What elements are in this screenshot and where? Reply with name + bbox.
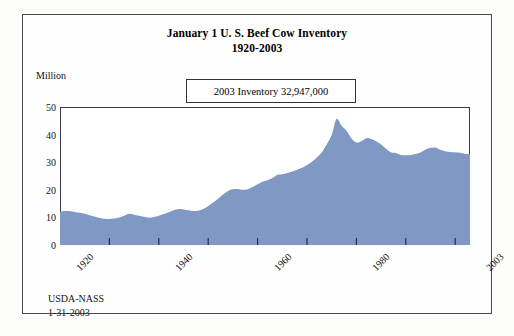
y-tick-label: 10	[34, 212, 56, 223]
y-axis-tick-labels: 01020304050	[30, 107, 56, 245]
y-tick-label: 50	[34, 102, 56, 113]
y-tick-label: 20	[34, 184, 56, 195]
inventory-annotation-label: 2003 Inventory 32,947,000	[214, 86, 328, 97]
page-title: January 1 U. S. Beef Cow Inventory	[0, 26, 514, 41]
inventory-area-series	[60, 119, 470, 245]
source-footer: USDA-NASS 1-31-2003	[48, 292, 104, 319]
y-tick-label: 30	[34, 157, 56, 168]
y-tick-label: 40	[34, 129, 56, 140]
y-axis-title: Million	[36, 70, 66, 81]
source-date: 1-31-2003	[48, 306, 104, 320]
x-tick-label: 1980	[370, 251, 392, 273]
x-tick-label: 1920	[74, 251, 96, 273]
x-tick-label: 1960	[271, 251, 293, 273]
x-axis-tick-labels: 19201940196019802003	[60, 245, 470, 293]
chart-subtitle: 1920-2003	[0, 41, 514, 56]
chart-title-block: January 1 U. S. Beef Cow Inventory 1920-…	[0, 26, 514, 55]
plot-area	[60, 107, 470, 245]
y-tick-label: 0	[34, 240, 56, 251]
document-page: January 1 U. S. Beef Cow Inventory 1920-…	[0, 0, 514, 336]
inventory-annotation-box: 2003 Inventory 32,947,000	[186, 79, 356, 103]
source-agency: USDA-NASS	[48, 292, 104, 306]
beef-cow-inventory-area-chart	[60, 107, 470, 245]
x-tick-label: 1940	[173, 251, 195, 273]
